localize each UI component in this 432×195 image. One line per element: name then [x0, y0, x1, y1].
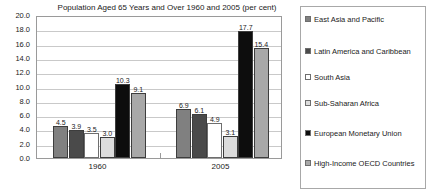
bar-value-label: 4.5: [56, 119, 66, 127]
legend-swatch-icon: [305, 130, 311, 136]
y-tick-label: 8.0: [20, 98, 30, 106]
bars-layer: 4.53.93.53.010.39.16.96.14.93.117.715.4: [37, 17, 281, 158]
x-axis: 19602005: [36, 162, 282, 176]
bar-value-label: 4.9: [210, 116, 220, 124]
bar: [100, 137, 115, 158]
y-tick-label: 12.0: [15, 69, 30, 77]
y-tick-label: 6.0: [20, 112, 30, 120]
y-tick-label: 2.0: [20, 141, 30, 149]
bar-value-label: 3.1: [225, 129, 235, 137]
y-tick-label: 18.0: [15, 26, 30, 34]
chart-plot-region: 20.018.016.014.012.010.08.06.04.02.00.0 …: [0, 16, 292, 176]
y-tick-label: 14.0: [15, 55, 30, 63]
chart-title: Population Aged 65 Years and Over 1960 a…: [42, 3, 292, 13]
legend-label: South Asia: [314, 73, 350, 82]
bar-value-label: 9.1: [133, 86, 143, 94]
bar: [84, 133, 99, 158]
legend: East Asia and PacificLatin America and C…: [300, 6, 426, 189]
x-tick-label: 2005: [212, 162, 230, 172]
chart-screenshot: Population Aged 65 Years and Over 1960 a…: [0, 0, 432, 195]
legend-swatch-icon: [305, 160, 311, 166]
legend-label: High-Income OECD Countries: [314, 159, 414, 168]
bar: [223, 136, 238, 158]
x-axis-group-separator: [160, 153, 161, 158]
bar: [69, 130, 84, 158]
bar-value-label: 17.7: [239, 24, 253, 32]
bar: [53, 126, 68, 158]
bar-value-label: 3.5: [87, 126, 97, 134]
legend-item[interactable]: Sub-Saharan Africa: [305, 99, 423, 108]
legend-label: Sub-Saharan Africa: [314, 99, 379, 108]
legend-item[interactable]: South Asia: [305, 73, 423, 82]
bar: [192, 114, 207, 158]
y-tick-label: 10.0: [15, 84, 30, 92]
bar: [176, 109, 191, 158]
legend-label: East Asia and Pacific: [314, 15, 384, 24]
legend-label: Latin America and Caribbean: [314, 47, 411, 56]
x-tick-label: 1960: [89, 162, 107, 172]
y-tick-label: 4.0: [20, 126, 30, 134]
legend-item[interactable]: European Monetary Union: [305, 129, 423, 138]
bar: [254, 48, 269, 158]
bar-value-label: 3.0: [102, 130, 112, 138]
y-tick-label: 16.0: [15, 41, 30, 49]
bar: [131, 93, 146, 158]
bar: [115, 84, 130, 158]
bar-value-label: 3.9: [71, 123, 81, 131]
bar-value-label: 10.3: [116, 77, 130, 85]
y-tick-label: 0.0: [20, 155, 30, 163]
y-tick-label: 20.0: [15, 12, 30, 20]
bar-value-label: 15.4: [254, 41, 268, 49]
plot-frame: 4.53.93.53.010.39.16.96.14.93.117.715.4: [36, 16, 282, 159]
legend-item[interactable]: Latin America and Caribbean: [305, 47, 423, 56]
y-axis: 20.018.016.014.012.010.08.06.04.02.00.0: [0, 16, 32, 159]
legend-swatch-icon: [305, 74, 311, 80]
bar-value-label: 6.1: [194, 107, 204, 115]
legend-swatch-icon: [305, 16, 311, 22]
bar: [207, 123, 222, 158]
legend-swatch-icon: [305, 48, 311, 54]
bar: [238, 31, 253, 158]
bar-value-label: 6.9: [179, 102, 189, 110]
legend-item[interactable]: High-Income OECD Countries: [305, 159, 423, 168]
legend-swatch-icon: [305, 100, 311, 106]
legend-item[interactable]: East Asia and Pacific: [305, 15, 423, 24]
legend-label: European Monetary Union: [314, 129, 402, 138]
